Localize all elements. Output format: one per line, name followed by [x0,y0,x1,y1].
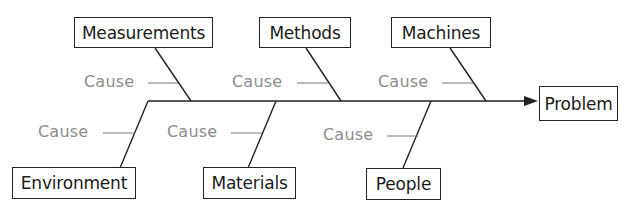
rib-methods [306,48,341,101]
category-box-materials: Materials [203,167,296,199]
category-box-measurements: Measurements [74,17,213,48]
rib-machines [450,48,486,101]
category-box-people: People [366,168,441,200]
cause-label-measurements: Cause [84,72,134,91]
cause-label-environment: Cause [38,122,88,141]
rib-measurements [155,48,191,101]
cause-label-people: Cause [323,125,373,144]
cause-label-machines: Cause [378,72,428,91]
rib-environment [120,101,148,168]
cause-label-methods: Cause [232,72,282,91]
category-box-environment: Environment [12,167,136,199]
effect-box-problem: Problem [539,86,618,121]
rib-materials [248,101,276,168]
fishbone-diagram: Measurements Methods Machines Problem En… [0,0,644,215]
rib-people [403,101,431,168]
arrow-head-icon [524,96,538,106]
category-box-methods: Methods [259,17,351,48]
cause-label-materials: Cause [167,122,217,141]
category-box-machines: Machines [391,17,491,48]
